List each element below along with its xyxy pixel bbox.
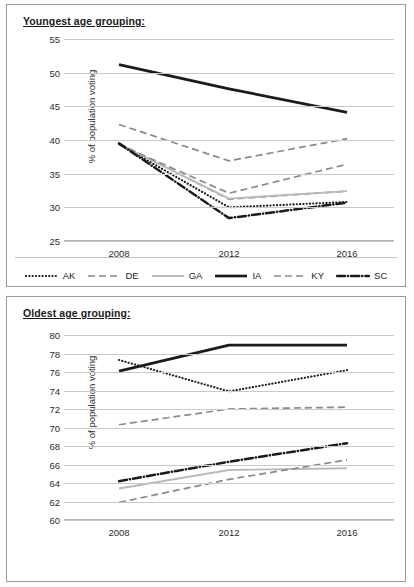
legend-swatch-ia (214, 271, 248, 281)
x-axis-tick-label: 2016 (336, 527, 357, 538)
gridline (64, 39, 394, 40)
gridline (64, 372, 394, 373)
legend-item-sc[interactable]: SC (336, 270, 387, 281)
x-axis-tick-label: 2012 (218, 527, 239, 538)
y-axis-tick-label: 64 (49, 478, 60, 489)
gridline (64, 106, 394, 107)
series-line-ky (119, 145, 347, 193)
series-line-sc (119, 443, 347, 481)
series-line-ga (119, 144, 347, 199)
y-axis-tick-label: 70 (49, 422, 60, 433)
series-line-de (119, 143, 347, 199)
y-axis-tick-label: 30 (49, 202, 60, 213)
legend-item-ga[interactable]: GA (151, 270, 203, 281)
series-line-ak (119, 360, 347, 391)
legend-swatch-sc (336, 271, 370, 281)
gridline (64, 409, 394, 410)
youngest-plot-area: % of population voting 55504540353025200… (64, 39, 394, 241)
legend-label: AK (63, 270, 76, 281)
gridline (64, 354, 394, 355)
series-line-de-upper (119, 125, 347, 161)
legend-swatch-ky (273, 271, 307, 281)
y-axis-tick-label: 68 (49, 441, 60, 452)
legend-item-ky[interactable]: KY (273, 270, 324, 281)
y-axis-tick-label: 62 (49, 496, 60, 507)
gridline (64, 73, 394, 74)
y-axis-tick-label: 45 (49, 101, 60, 112)
series-line-ky (119, 460, 347, 503)
gridline (64, 520, 394, 521)
gridline (64, 446, 394, 447)
legend-swatch-ga (151, 271, 185, 281)
youngest-legend-divider (15, 257, 397, 258)
oldest-plot-area: % of population voting 80787674727068666… (64, 335, 394, 520)
legend-label: DE (125, 270, 138, 281)
oldest-age-panel: Oldest age grouping: % of population vot… (6, 296, 406, 582)
legend-swatch-de (87, 271, 121, 281)
y-axis-tick-label: 72 (49, 404, 60, 415)
y-axis-tick-label: 76 (49, 367, 60, 378)
gridline (64, 174, 394, 175)
legend-item-ia[interactable]: IA (214, 270, 261, 281)
x-axis-tick-label: 2008 (108, 527, 129, 538)
legend-label: KY (311, 270, 324, 281)
y-axis-tick-label: 60 (49, 515, 60, 526)
youngest-legend: AKDEGAIAKYSC (7, 270, 405, 281)
legend-item-de[interactable]: DE (87, 270, 138, 281)
y-axis-tick-label: 78 (49, 348, 60, 359)
y-axis-tick-label: 55 (49, 34, 60, 45)
youngest-chart-title: Youngest age grouping: (23, 15, 145, 27)
gridline (64, 502, 394, 503)
gridline (64, 391, 394, 392)
legend-label: GA (189, 270, 203, 281)
y-axis-tick-label: 80 (49, 330, 60, 341)
gridline (64, 207, 394, 208)
legend-label: SC (374, 270, 387, 281)
gridline (64, 140, 394, 141)
series-line-ia (119, 345, 347, 371)
y-axis-tick-label: 66 (49, 459, 60, 470)
y-axis-tick-label: 35 (49, 168, 60, 179)
gridline (64, 335, 394, 336)
youngest-age-panel: Youngest age grouping: % of population v… (6, 4, 406, 287)
y-axis-tick-label: 74 (49, 385, 60, 396)
legend-swatch-ak (25, 271, 59, 281)
y-axis-tick-label: 25 (49, 236, 60, 247)
chart-page: Youngest age grouping: % of population v… (0, 0, 414, 587)
gridline (64, 428, 394, 429)
y-axis-tick-label: 50 (49, 67, 60, 78)
oldest-chart-title: Oldest age grouping: (23, 307, 131, 319)
gridline (64, 483, 394, 484)
y-axis-tick-label: 40 (49, 135, 60, 146)
gridline (64, 465, 394, 466)
legend-label: IA (252, 270, 261, 281)
gridline (64, 241, 394, 242)
legend-item-ak[interactable]: AK (25, 270, 76, 281)
